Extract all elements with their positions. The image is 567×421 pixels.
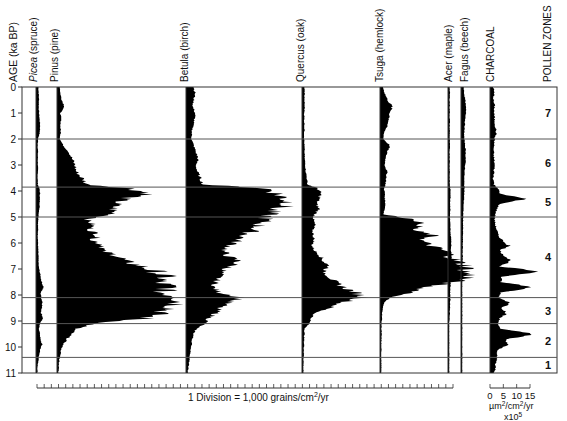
diagram-frame <box>22 87 557 373</box>
pollen-zone-labels: 7654321 <box>545 107 552 371</box>
curve-charcoal <box>490 87 538 373</box>
charcoal-tick-label: 5 <box>501 390 506 401</box>
column-header-charcoal: CHARCOAL <box>485 26 496 82</box>
pollen-zones-header: POLLEN ZONES <box>542 5 553 82</box>
column-headers: AGE (ka BP)Picea (spruce)Pinus (pine)Bet… <box>7 5 553 82</box>
age-tick-label: 11 <box>6 368 17 379</box>
age-tick-label: 1 <box>10 108 16 119</box>
age-tick-label: 4 <box>10 186 16 197</box>
column-header-fagus: Fagus (beech) <box>459 18 470 82</box>
charcoal-multiplier-label: x105 <box>504 411 523 421</box>
pollen-curves <box>36 87 538 373</box>
pollen-scale-label: 1 Division = 1,000 grains/cm2/yr <box>188 391 330 403</box>
age-tick-label: 7 <box>10 264 16 275</box>
age-axis-label: AGE (ka BP) <box>7 22 19 82</box>
column-header-betula: Betula (birch) <box>179 23 190 82</box>
age-axis: 01234567891011 <box>5 82 22 379</box>
charcoal-unit-label: µm2/cm2/yr <box>489 400 533 411</box>
charcoal-tick-label: 10 <box>511 390 522 401</box>
column-header-tsuga: Tsuga (hemlock) <box>374 9 385 82</box>
age-tick-label: 2 <box>10 134 16 145</box>
age-tick-label: 8 <box>10 290 16 301</box>
column-header-picea: Picea (spruce) <box>28 18 39 82</box>
column-header-acer: Acer (maple) <box>443 25 454 82</box>
age-tick-label: 3 <box>10 160 16 171</box>
zone-label-5: 5 <box>545 196 551 208</box>
curve-acer <box>448 87 452 373</box>
curve-picea <box>36 87 44 373</box>
age-tick-label: 9 <box>10 316 16 327</box>
charcoal-tick-label: 0 <box>487 390 492 401</box>
zone-label-2: 2 <box>545 335 551 347</box>
charcoal-tick-label: 15 <box>525 390 536 401</box>
age-tick-label: 0 <box>10 82 16 93</box>
curve-pinus <box>57 87 184 373</box>
zone-label-6: 6 <box>545 157 551 169</box>
age-tick-label: 10 <box>5 342 17 353</box>
pollen-diagram: AGE (ka BP)Picea (spruce)Pinus (pine)Bet… <box>0 0 567 421</box>
zone-label-1: 1 <box>545 359 551 371</box>
curve-fagus <box>461 87 466 373</box>
zone-label-3: 3 <box>545 305 551 317</box>
curve-betula <box>186 87 294 373</box>
zone-label-4: 4 <box>545 251 552 263</box>
zone-label-7: 7 <box>545 107 551 119</box>
curve-quercus <box>302 87 368 373</box>
age-tick-label: 5 <box>10 212 16 223</box>
column-header-quercus: Quercus (oak) <box>295 19 306 82</box>
column-header-pinus: Pinus (pine) <box>49 29 60 82</box>
scale-bars: 1 Division = 1,000 grains/cm2/yr µm2/cm2… <box>37 384 535 421</box>
age-tick-label: 6 <box>10 238 16 249</box>
